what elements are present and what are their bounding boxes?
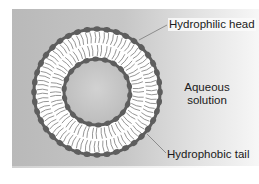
head-leader-line	[139, 25, 167, 40]
aqueous-solution-label: Aqueous solution	[184, 81, 230, 107]
aqueous-line-1: Aqueous	[184, 81, 230, 94]
hydrophilic-head	[93, 152, 100, 158]
hydrophilic-head	[93, 26, 100, 32]
hydrophilic-head	[31, 88, 37, 95]
aqueous-line-2: solution	[184, 94, 230, 107]
tail-leader-line	[147, 134, 166, 153]
hydrophilic-head	[157, 88, 163, 95]
hydrophilic-head-label: Hydrophilic head	[168, 18, 256, 31]
bilayer	[31, 26, 163, 158]
hydrophobic-tail-label: Hydrophobic tail	[167, 148, 249, 161]
